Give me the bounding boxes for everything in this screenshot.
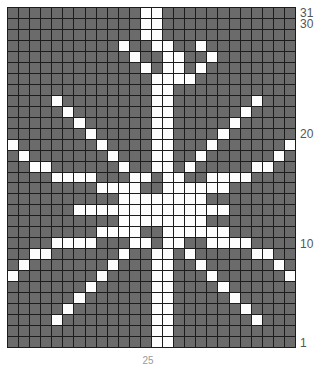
stitch-cell[interactable] [152,107,163,118]
stitch-cell[interactable] [196,8,207,19]
stitch-cell[interactable] [285,162,296,173]
stitch-cell[interactable] [19,249,30,260]
stitch-cell[interactable] [185,74,196,85]
stitch-cell[interactable] [230,183,241,194]
stitch-cell[interactable] [130,194,141,205]
stitch-cell[interactable] [63,260,74,271]
stitch-cell[interactable] [97,337,108,348]
stitch-cell[interactable] [163,238,174,249]
stitch-cell[interactable] [63,282,74,293]
stitch-cell[interactable] [196,260,207,271]
stitch-cell[interactable] [41,227,52,238]
stitch-cell[interactable] [86,216,97,227]
stitch-cell[interactable] [207,282,218,293]
stitch-cell[interactable] [263,293,274,304]
stitch-cell[interactable] [130,30,141,41]
stitch-cell[interactable] [52,173,63,184]
stitch-cell[interactable] [41,282,52,293]
stitch-cell[interactable] [30,63,41,74]
stitch-cell[interactable] [63,205,74,216]
stitch-cell[interactable] [74,205,85,216]
stitch-cell[interactable] [41,8,52,19]
stitch-cell[interactable] [185,227,196,238]
stitch-cell[interactable] [41,96,52,107]
stitch-cell[interactable] [141,304,152,315]
stitch-cell[interactable] [252,19,263,30]
stitch-cell[interactable] [41,216,52,227]
stitch-cell[interactable] [285,118,296,129]
stitch-cell[interactable] [8,194,19,205]
stitch-cell[interactable] [52,140,63,151]
stitch-cell[interactable] [196,337,207,348]
stitch-cell[interactable] [285,63,296,74]
stitch-cell[interactable] [119,227,130,238]
stitch-cell[interactable] [30,260,41,271]
stitch-cell[interactable] [285,8,296,19]
stitch-cell[interactable] [30,118,41,129]
stitch-cell[interactable] [19,205,30,216]
stitch-cell[interactable] [207,52,218,63]
stitch-cell[interactable] [263,129,274,140]
stitch-cell[interactable] [108,8,119,19]
stitch-cell[interactable] [86,8,97,19]
stitch-cell[interactable] [8,151,19,162]
stitch-cell[interactable] [41,129,52,140]
stitch-cell[interactable] [130,205,141,216]
stitch-cell[interactable] [274,30,285,41]
stitch-cell[interactable] [230,337,241,348]
stitch-cell[interactable] [274,63,285,74]
stitch-cell[interactable] [19,216,30,227]
stitch-cell[interactable] [141,315,152,326]
stitch-cell[interactable] [97,19,108,30]
stitch-cell[interactable] [163,205,174,216]
stitch-cell[interactable] [152,19,163,30]
stitch-cell[interactable] [196,282,207,293]
stitch-cell[interactable] [152,205,163,216]
stitch-cell[interactable] [218,271,229,282]
stitch-cell[interactable] [108,238,119,249]
stitch-cell[interactable] [163,107,174,118]
stitch-cell[interactable] [63,107,74,118]
stitch-cell[interactable] [196,216,207,227]
stitch-cell[interactable] [241,63,252,74]
stitch-cell[interactable] [185,183,196,194]
stitch-cell[interactable] [152,249,163,260]
stitch-cell[interactable] [274,249,285,260]
stitch-cell[interactable] [63,304,74,315]
stitch-cell[interactable] [141,183,152,194]
stitch-cell[interactable] [263,85,274,96]
stitch-cell[interactable] [152,85,163,96]
stitch-cell[interactable] [63,74,74,85]
stitch-cell[interactable] [185,118,196,129]
stitch-cell[interactable] [52,8,63,19]
stitch-cell[interactable] [230,118,241,129]
stitch-cell[interactable] [174,183,185,194]
stitch-cell[interactable] [230,249,241,260]
stitch-cell[interactable] [174,304,185,315]
stitch-cell[interactable] [152,52,163,63]
stitch-cell[interactable] [141,30,152,41]
stitch-cell[interactable] [86,227,97,238]
stitch-cell[interactable] [241,151,252,162]
stitch-cell[interactable] [285,96,296,107]
stitch-cell[interactable] [30,194,41,205]
stitch-cell[interactable] [63,216,74,227]
stitch-cell[interactable] [152,293,163,304]
stitch-cell[interactable] [207,19,218,30]
stitch-cell[interactable] [30,74,41,85]
stitch-cell[interactable] [63,19,74,30]
stitch-cell[interactable] [263,183,274,194]
stitch-cell[interactable] [174,8,185,19]
stitch-cell[interactable] [141,41,152,52]
stitch-cell[interactable] [8,85,19,96]
stitch-cell[interactable] [274,162,285,173]
stitch-cell[interactable] [63,41,74,52]
stitch-cell[interactable] [263,162,274,173]
stitch-cell[interactable] [97,260,108,271]
stitch-cell[interactable] [274,107,285,118]
stitch-cell[interactable] [207,151,218,162]
stitch-cell[interactable] [119,8,130,19]
stitch-cell[interactable] [218,52,229,63]
stitch-cell[interactable] [163,227,174,238]
stitch-cell[interactable] [141,216,152,227]
